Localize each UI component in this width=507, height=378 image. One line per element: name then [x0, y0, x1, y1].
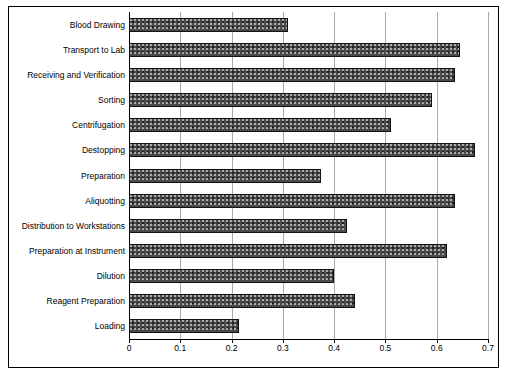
x-axis-tick-label: 0.7 [482, 343, 494, 353]
bar [129, 93, 432, 107]
x-axis-tick [283, 339, 284, 343]
bar-row [129, 68, 488, 82]
bar-row [129, 93, 488, 107]
x-axis-tick [437, 339, 438, 343]
category-label: Blood Drawing [70, 20, 125, 30]
bar [129, 169, 321, 183]
bar-row [129, 169, 488, 183]
x-axis-tick [180, 339, 181, 343]
bar [129, 244, 447, 258]
x-axis-tick-label: 0.4 [328, 343, 340, 353]
x-axis-tick [129, 339, 130, 343]
bar-row [129, 143, 488, 157]
value-axis-labels: 00.10.20.30.40.50.60.7 [129, 343, 488, 359]
category-label: Distribution to Workstations [22, 221, 125, 231]
x-axis-tick-label: 0.6 [431, 343, 443, 353]
bar-row [129, 118, 488, 132]
bar [129, 294, 355, 308]
category-axis-labels: Blood DrawingTransport to LabReceiving a… [8, 12, 125, 339]
bar [129, 68, 455, 82]
category-label: Centrifugation [72, 120, 125, 130]
category-label: Receiving and Verification [27, 70, 125, 80]
bar-row [129, 194, 488, 208]
bar [129, 118, 391, 132]
x-axis-tick [232, 339, 233, 343]
category-label: Reagent Preparation [47, 296, 125, 306]
bar-row [129, 269, 488, 283]
category-label: Preparation [81, 171, 125, 181]
bar-row [129, 219, 488, 233]
x-axis-tick-label: 0.2 [226, 343, 238, 353]
bar [129, 269, 334, 283]
category-label: Sorting [98, 95, 125, 105]
bar-chart: Blood DrawingTransport to LabReceiving a… [0, 0, 507, 378]
gridline [488, 12, 489, 339]
bar-row [129, 43, 488, 57]
plot-area [129, 12, 488, 339]
bar-row [129, 18, 488, 32]
x-axis-tick [385, 339, 386, 343]
x-axis-line [129, 339, 488, 340]
category-label: Loading [95, 321, 125, 331]
bar-row [129, 244, 488, 258]
x-axis-tick-label: 0 [127, 343, 132, 353]
category-label: Aliquotting [85, 196, 125, 206]
category-label: Destopping [82, 145, 125, 155]
bar-row [129, 319, 488, 333]
x-axis-tick-label: 0.5 [380, 343, 392, 353]
category-label: Transport to Lab [63, 45, 125, 55]
bar-row [129, 294, 488, 308]
bar [129, 18, 288, 32]
x-axis-tick [488, 339, 489, 343]
x-axis-tick-label: 0.3 [277, 343, 289, 353]
bar [129, 319, 239, 333]
bar [129, 194, 455, 208]
bar [129, 43, 460, 57]
category-label: Dilution [97, 271, 125, 281]
x-axis-tick [334, 339, 335, 343]
bar [129, 219, 347, 233]
x-axis-tick-label: 0.1 [174, 343, 186, 353]
category-label: Preparation at Instrument [29, 246, 125, 256]
bar [129, 143, 475, 157]
